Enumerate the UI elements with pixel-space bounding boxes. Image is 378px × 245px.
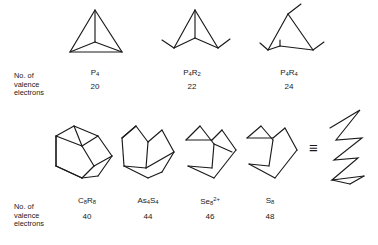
formula-se8: Se82+ <box>200 196 220 206</box>
structure-c8r8 <box>52 118 120 182</box>
formula-c8r8: C8R8 <box>78 196 96 205</box>
row-label-line-3: electrons <box>14 89 44 98</box>
valence-count-p4r4: 24 <box>285 82 294 91</box>
valence-count-se8: 46 <box>206 212 215 221</box>
figure-canvas: P4 P4R2 P4R4 20 22 24 No. of valence ele… <box>0 0 378 245</box>
structure-p4 <box>62 6 128 58</box>
structure-se8 <box>182 118 248 182</box>
formula-p4r2: P4R2 <box>183 68 201 77</box>
valence-count-p4r2: 22 <box>188 82 197 91</box>
formula-p4r4: P4R4 <box>280 68 298 77</box>
row-label-valence-electrons-bottom: No. of valence electrons <box>14 203 44 229</box>
row-label-valence-electrons-top: No. of valence electrons <box>14 72 44 98</box>
row-label-line-3: electrons <box>14 220 44 229</box>
structure-p4r2 <box>158 6 236 60</box>
valence-count-s8: 48 <box>266 212 275 221</box>
structure-s8 <box>243 118 307 182</box>
formula-p4: P4 <box>91 68 100 77</box>
equivalence-icon: ≡ <box>309 140 318 155</box>
formula-s8: S8 <box>266 196 275 205</box>
structure-p4r4 <box>258 2 340 60</box>
valence-count-as4s4: 44 <box>144 212 153 221</box>
formula-as4s4: As4S4 <box>137 196 158 205</box>
valence-count-c8r8: 40 <box>83 212 92 221</box>
structure-as4s4 <box>118 118 184 182</box>
structure-s8-crown-sideview <box>324 106 376 190</box>
valence-count-p4: 20 <box>91 82 100 91</box>
